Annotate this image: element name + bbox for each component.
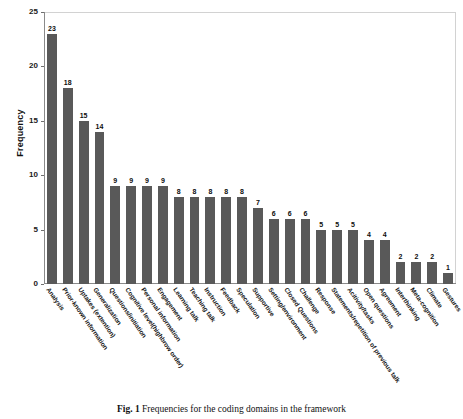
bar-rect (301, 219, 311, 284)
y-axis-tick-label: 10 (29, 169, 38, 180)
bar-rect (237, 197, 247, 284)
bar-value-label: 14 (96, 123, 104, 130)
bar[interactable]: 7 (253, 12, 263, 284)
bar-rect (253, 208, 263, 284)
bar-rect (158, 186, 168, 284)
bar-value-label: 9 (129, 177, 133, 184)
bar[interactable]: 8 (174, 12, 184, 284)
bar-value-label: 4 (367, 231, 371, 238)
y-axis-tick-label: 20 (29, 60, 38, 71)
bar-value-label: 7 (256, 199, 260, 206)
bar-value-label: 9 (161, 177, 165, 184)
bar-rect (47, 34, 57, 284)
bar-value-label: 6 (272, 210, 276, 217)
bar[interactable]: 6 (269, 12, 279, 284)
bar-rect (221, 197, 231, 284)
bar[interactable]: 4 (364, 12, 374, 284)
caption-label: Fig. 1 (117, 404, 140, 414)
bar[interactable]: 15 (79, 12, 89, 284)
caption-text: Frequencies for the coding domains in th… (142, 404, 346, 414)
y-axis-tick-label: 0 (34, 278, 38, 289)
y-axis-tick-mark (41, 284, 44, 285)
bar-rect (142, 186, 152, 284)
bar[interactable]: 8 (237, 12, 247, 284)
bar-value-label: 8 (193, 188, 197, 195)
bar[interactable]: 9 (158, 12, 168, 284)
bar[interactable]: 9 (142, 12, 152, 284)
bar[interactable]: 2 (427, 12, 437, 284)
bar-rect (348, 230, 358, 284)
y-axis-title: Frequency (15, 83, 25, 183)
bar-value-label: 23 (48, 25, 56, 32)
y-axis-tick: 5 (0, 230, 44, 231)
bar-rect (110, 186, 120, 284)
bar-value-label: 8 (208, 188, 212, 195)
bar[interactable]: 14 (95, 12, 105, 284)
bar[interactable]: 8 (205, 12, 215, 284)
bar-value-label: 18 (64, 79, 72, 86)
bar-rect (411, 262, 421, 284)
bar-value-label: 1 (446, 264, 450, 271)
bar-rect (63, 88, 73, 284)
bar-rect (79, 121, 89, 284)
bar-rect (269, 219, 279, 284)
bar-rect (443, 273, 453, 284)
bar[interactable]: 23 (47, 12, 57, 284)
y-axis-tick: 20 (0, 66, 44, 67)
figure-caption: Fig. 1 Frequencies for the coding domain… (0, 404, 463, 414)
bar-value-label: 6 (288, 210, 292, 217)
bar-rect (316, 230, 326, 284)
bar-rect (396, 262, 406, 284)
bar-value-label: 9 (113, 177, 117, 184)
bar[interactable]: 5 (316, 12, 326, 284)
bar-rect (332, 230, 342, 284)
bar[interactable]: 9 (110, 12, 120, 284)
bar-value-label: 6 (304, 210, 308, 217)
bar-rect (380, 240, 390, 284)
bar-value-label: 4 (383, 231, 387, 238)
bar-value-label: 15 (80, 112, 88, 119)
bar[interactable]: 6 (285, 12, 295, 284)
bar[interactable]: 4 (380, 12, 390, 284)
bar-value-label: 2 (414, 253, 418, 260)
bar-value-label: 5 (351, 221, 355, 228)
bar-rect (190, 197, 200, 284)
bar-value-label: 8 (240, 188, 244, 195)
x-axis-tick-labels: AnalysisPrior-known informationUptakes (… (44, 286, 456, 398)
x-axis-tick-label: Gestures (441, 286, 463, 313)
bar-rect (126, 186, 136, 284)
bar[interactable]: 2 (411, 12, 421, 284)
bar[interactable]: 6 (301, 12, 311, 284)
bar-value-label: 8 (224, 188, 228, 195)
y-axis-tick-label: 25 (29, 6, 38, 17)
bar[interactable]: 5 (348, 12, 358, 284)
bar[interactable]: 1 (443, 12, 453, 284)
bar[interactable]: 8 (190, 12, 200, 284)
bar-rect (364, 240, 374, 284)
y-axis-tick: 0 (0, 284, 44, 285)
bar[interactable]: 18 (63, 12, 73, 284)
bar-series: 231815149999888887666555442221 (44, 12, 456, 284)
bar-rect (427, 262, 437, 284)
y-axis-tick-label: 15 (29, 115, 38, 126)
y-axis-tick: 25 (0, 12, 44, 13)
bar[interactable]: 9 (126, 12, 136, 284)
bar-rect (95, 132, 105, 284)
bar[interactable]: 2 (396, 12, 406, 284)
bar-value-label: 2 (430, 253, 434, 260)
bar-value-label: 9 (145, 177, 149, 184)
bar-value-label: 5 (319, 221, 323, 228)
bar-value-label: 5 (335, 221, 339, 228)
bar[interactable]: 5 (332, 12, 342, 284)
bar-value-label: 2 (399, 253, 403, 260)
y-axis-tick-label: 5 (34, 224, 38, 235)
bar-rect (205, 197, 215, 284)
figure-container: 0510152025 Frequency 2318151499998888876… (0, 0, 463, 419)
bar-rect (285, 219, 295, 284)
bar-value-label: 8 (177, 188, 181, 195)
bar-rect (174, 197, 184, 284)
bar[interactable]: 8 (221, 12, 231, 284)
